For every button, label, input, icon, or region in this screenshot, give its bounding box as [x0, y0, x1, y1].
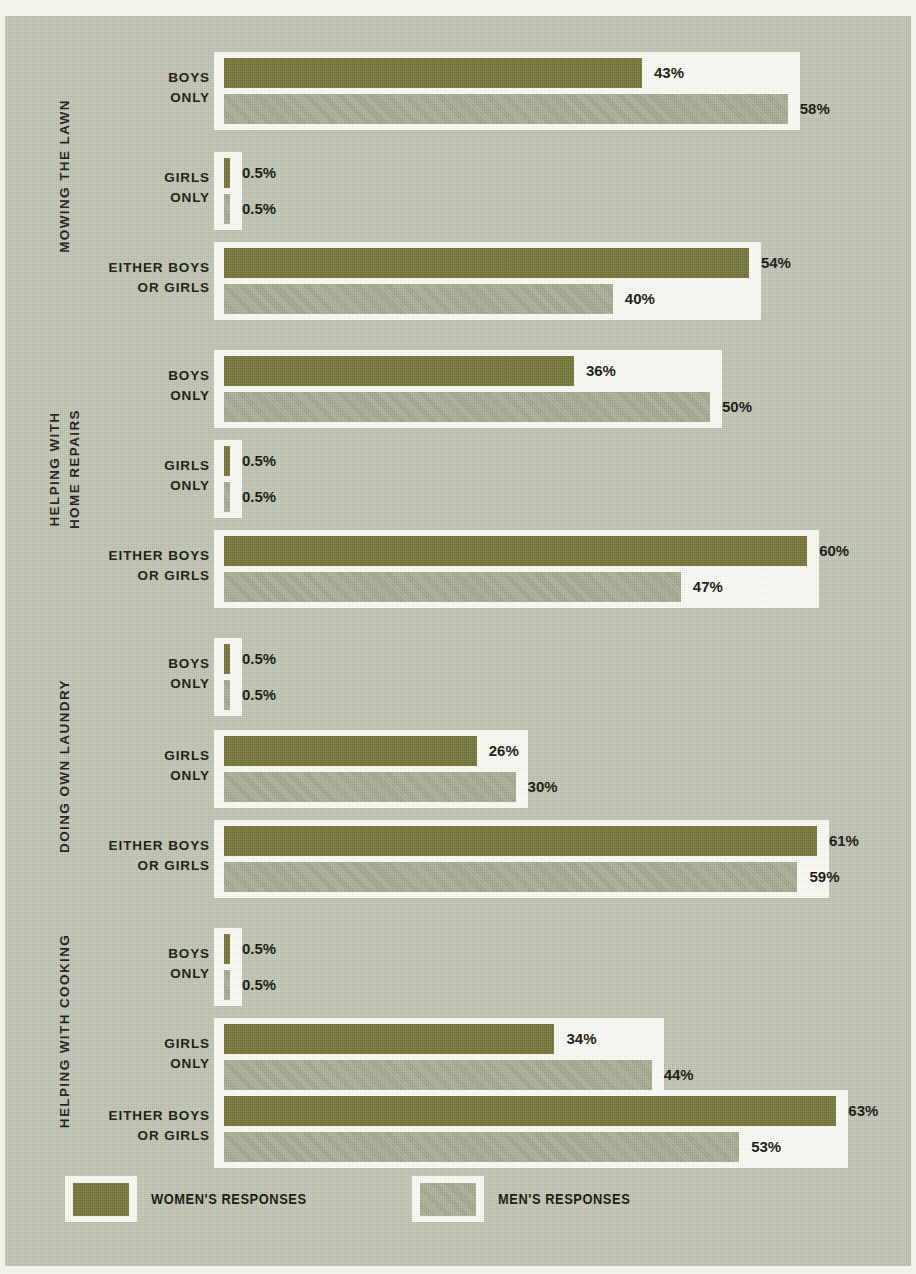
value-label-women: 0.5%: [242, 934, 276, 964]
bar-women[interactable]: [224, 356, 574, 386]
bar-women[interactable]: [224, 644, 230, 674]
row-label: EITHER BOYSOR GIRLS: [60, 836, 210, 876]
value-label-women: 36%: [586, 356, 616, 386]
bar-women[interactable]: [224, 1024, 554, 1054]
value-label-men: 47%: [693, 572, 723, 602]
row-label: BOYSONLY: [60, 366, 210, 406]
bar-men[interactable]: [224, 284, 613, 314]
value-label-women: 63%: [848, 1096, 878, 1126]
bar-women[interactable]: [224, 158, 230, 188]
row-label: EITHER BOYSOR GIRLS: [60, 1106, 210, 1146]
value-label-women: 0.5%: [242, 446, 276, 476]
bar-pair: [214, 440, 242, 518]
value-label-men: 44%: [664, 1060, 694, 1090]
bar-women[interactable]: [224, 1096, 836, 1126]
chart-legend: WOMEN'S RESPONSES MEN'S RESPONSES: [65, 1176, 734, 1222]
bar-pair: [214, 730, 528, 808]
value-label-women: 61%: [829, 826, 859, 856]
bar-men[interactable]: [224, 194, 230, 224]
bar-men[interactable]: [224, 1060, 652, 1090]
value-label-men: 53%: [751, 1132, 781, 1162]
row-label: BOYSONLY: [60, 944, 210, 984]
bar-men[interactable]: [224, 680, 230, 710]
bar-pair: [214, 350, 722, 428]
legend-item-men[interactable]: MEN'S RESPONSES: [412, 1176, 642, 1222]
bar-pair: [214, 928, 242, 1006]
bar-men[interactable]: [224, 482, 230, 512]
value-label-men: 30%: [528, 772, 558, 802]
bar-pair: [214, 638, 242, 716]
row-label: GIRLSONLY: [60, 746, 210, 786]
bar-women[interactable]: [224, 934, 230, 964]
bar-men[interactable]: [224, 970, 230, 1000]
value-label-women: 54%: [761, 248, 791, 278]
row-label: GIRLSONLY: [60, 168, 210, 208]
value-label-women: 43%: [654, 58, 684, 88]
plot-area: 43%58%0.5%0.5%54%40%36%50%0.5%0.5%60%47%…: [214, 30, 900, 1139]
value-label-men: 0.5%: [242, 970, 276, 1000]
value-label-women: 34%: [566, 1024, 596, 1054]
value-label-women: 26%: [489, 736, 519, 766]
bar-women[interactable]: [224, 58, 642, 88]
bar-men[interactable]: [224, 772, 516, 802]
bar-women[interactable]: [224, 536, 807, 566]
bar-women[interactable]: [224, 446, 230, 476]
row-label: GIRLSONLY: [60, 1034, 210, 1074]
value-label-men: 40%: [625, 284, 655, 314]
value-label-men: 58%: [800, 94, 830, 124]
bar-women[interactable]: [224, 248, 749, 278]
bar-pair: [214, 52, 800, 130]
bar-pair: [214, 152, 242, 230]
value-label-men: 59%: [809, 862, 839, 892]
legend-item-women[interactable]: WOMEN'S RESPONSES: [65, 1176, 320, 1222]
bar-men[interactable]: [224, 392, 710, 422]
bar-men[interactable]: [224, 862, 797, 892]
value-label-men: 50%: [722, 392, 752, 422]
value-label-men: 0.5%: [242, 482, 276, 512]
legend-label-women: WOMEN'S RESPONSES: [151, 1191, 307, 1207]
legend-label-men: MEN'S RESPONSES: [498, 1191, 630, 1207]
value-label-men: 0.5%: [242, 194, 276, 224]
bar-men[interactable]: [224, 572, 681, 602]
row-label: EITHER BOYSOR GIRLS: [60, 258, 210, 298]
bar-pair: [214, 242, 761, 320]
bar-women[interactable]: [224, 826, 817, 856]
bar-pair: [214, 530, 819, 608]
legend-swatch-men-icon: [412, 1176, 484, 1222]
chart-page: MOWING THE LAWNHELPING WITHHOME REPAIRSD…: [5, 16, 911, 1266]
row-label: GIRLSONLY: [60, 456, 210, 496]
bar-men[interactable]: [224, 1132, 739, 1162]
row-label: BOYSONLY: [60, 68, 210, 108]
bar-pair: [214, 820, 829, 898]
value-label-men: 0.5%: [242, 680, 276, 710]
bar-women[interactable]: [224, 736, 477, 766]
value-label-women: 60%: [819, 536, 849, 566]
value-label-women: 0.5%: [242, 644, 276, 674]
row-label: EITHER BOYSOR GIRLS: [60, 546, 210, 586]
bar-men[interactable]: [224, 94, 788, 124]
legend-swatch-women-icon: [65, 1176, 137, 1222]
value-label-women: 0.5%: [242, 158, 276, 188]
row-label: BOYSONLY: [60, 654, 210, 694]
